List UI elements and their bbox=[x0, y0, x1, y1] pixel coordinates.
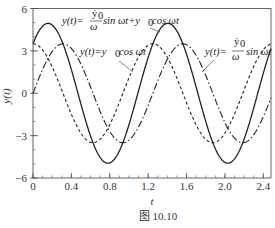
x-axis-title: t bbox=[150, 195, 154, 207]
x-tick-label: 0.4 bbox=[65, 180, 79, 192]
figure-caption: 图 10.10 bbox=[139, 210, 178, 222]
minor-ticks bbox=[33, 9, 263, 179]
leader-line-combined bbox=[150, 28, 160, 32]
annotation-cos: y(t)=y 0 cos ωt bbox=[79, 46, 147, 72]
x-tick-label: 2.0 bbox=[218, 180, 232, 192]
svg-text:y(t)=: y(t)= bbox=[204, 46, 227, 58]
leader-line-sin bbox=[202, 60, 214, 72]
x-tick-label: 1.6 bbox=[180, 180, 194, 192]
y-tick-label: 6 bbox=[22, 3, 28, 15]
svg-text:sin ωt: sin ωt bbox=[246, 46, 272, 57]
x-tick-label: 0.8 bbox=[103, 180, 117, 192]
svg-text:ω: ω bbox=[90, 21, 97, 32]
tick-labels: 00.40.81.21.62.02.4−6−3036 bbox=[15, 3, 270, 193]
x-tick-label: 1.2 bbox=[141, 180, 155, 192]
svg-text:sin ωt+y: sin ωt+y bbox=[103, 15, 140, 26]
svg-text:0: 0 bbox=[240, 38, 245, 49]
svg-text:y(t)=: y(t)= bbox=[61, 15, 84, 27]
y-tick-label: 0 bbox=[22, 87, 28, 99]
svg-text:cos ωt: cos ωt bbox=[119, 46, 147, 57]
leader-line-cos bbox=[119, 61, 133, 72]
svg-text:ω: ω bbox=[232, 51, 239, 62]
annotation-sin: y(t)= ẏ 0 ω sin ωt bbox=[202, 36, 272, 72]
plot-frame bbox=[33, 9, 271, 179]
annotation-combined: y(t)= ẏ 0 ω sin ωt+y 0 cos ωt bbox=[61, 8, 180, 32]
y-tick-label: −3 bbox=[15, 130, 27, 142]
vibration-response-chart: 00.40.81.21.62.02.4−6−3036 t y(t) 图 10.1… bbox=[0, 0, 275, 228]
y-tick-label: 3 bbox=[22, 45, 28, 57]
x-tick-label: 2.4 bbox=[256, 180, 270, 192]
y-axis-title: y(t) bbox=[0, 88, 13, 105]
major-ticks bbox=[30, 9, 263, 179]
x-tick-label: 0 bbox=[30, 180, 36, 192]
svg-text:cos ωt: cos ωt bbox=[152, 15, 180, 26]
y-tick-label: −6 bbox=[15, 172, 27, 184]
svg-text:y(t)=y: y(t)=y bbox=[79, 46, 107, 58]
